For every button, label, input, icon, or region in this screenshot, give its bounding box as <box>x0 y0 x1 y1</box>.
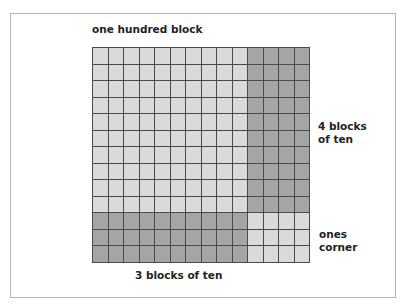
hundred-block-cell <box>155 48 171 65</box>
hundred-block-cell <box>171 81 187 98</box>
hundred-block-title: one hundred block <box>92 23 202 36</box>
right-tens-cell <box>264 147 280 164</box>
ones-corner-cell <box>248 246 264 263</box>
ones-corner-cell <box>248 213 264 230</box>
hundred-block-cell <box>217 197 233 214</box>
hundred-block-cell <box>93 98 109 115</box>
hundred-block-cell <box>233 65 249 82</box>
hundred-block-cell <box>109 114 125 131</box>
bottom-tens-cell <box>93 246 109 263</box>
hundred-block-cell <box>109 147 125 164</box>
right-tens-cell <box>264 164 280 181</box>
hundred-block-cell <box>109 131 125 148</box>
hundred-block-cell <box>217 81 233 98</box>
bottom-tens-cell <box>124 230 140 247</box>
hundred-block-cell <box>202 197 218 214</box>
hundred-block-cell <box>186 114 202 131</box>
right-tens-cell <box>279 164 295 181</box>
right-tens-cell <box>279 131 295 148</box>
hundred-block-cell <box>233 81 249 98</box>
hundred-block-cell <box>202 81 218 98</box>
hundred-block-cell <box>140 98 156 115</box>
hundred-block-cell <box>93 81 109 98</box>
right-tens-cell <box>295 114 311 131</box>
right-tens-cell <box>264 197 280 214</box>
hundred-block-cell <box>233 131 249 148</box>
hundred-block-cell <box>233 48 249 65</box>
hundred-block-cell <box>186 81 202 98</box>
right-tens-cell <box>295 164 311 181</box>
bottom-tens-cell <box>155 213 171 230</box>
right-tens-cell <box>295 180 311 197</box>
hundred-block-cell <box>155 147 171 164</box>
ones-corner-cell <box>295 230 311 247</box>
right-tens-cell <box>279 98 295 115</box>
hundred-block-cell <box>217 98 233 115</box>
hundred-block-cell <box>155 98 171 115</box>
hundred-block-cell <box>155 114 171 131</box>
ones-corner-cell <box>295 213 311 230</box>
right-tens-cell <box>295 65 311 82</box>
hundred-block-cell <box>202 180 218 197</box>
hundred-block-cell <box>186 65 202 82</box>
hundred-block-cell <box>124 164 140 181</box>
right-tens-cell <box>248 65 264 82</box>
right-tens-cell <box>264 81 280 98</box>
bottom-tens-cell <box>202 246 218 263</box>
bottom-tens-cell <box>171 213 187 230</box>
ones-corner-cell <box>248 230 264 247</box>
bottom-tens-cell <box>171 246 187 263</box>
hundred-block-cell <box>124 48 140 65</box>
bottom-tens-cell <box>217 230 233 247</box>
hundred-block-cell <box>109 65 125 82</box>
ones-corner-label: ones corner <box>319 228 357 254</box>
right-tens-cell <box>279 180 295 197</box>
bottom-tens-cell <box>140 246 156 263</box>
hundred-block-cell <box>217 147 233 164</box>
hundred-block-cell <box>233 180 249 197</box>
hundred-block-cell <box>93 131 109 148</box>
right-tens-cell <box>264 180 280 197</box>
hundred-block-cell <box>109 98 125 115</box>
hundred-block-cell <box>124 147 140 164</box>
hundred-block-cell <box>202 164 218 181</box>
hundred-block-cell <box>202 131 218 148</box>
bottom-tens-cell <box>140 213 156 230</box>
hundred-block-cell <box>124 81 140 98</box>
right-tens-cell <box>295 48 311 65</box>
hundred-block-cell <box>217 114 233 131</box>
hundred-block-cell <box>202 147 218 164</box>
hundred-block-cell <box>140 197 156 214</box>
three-blocks-of-ten-label: 3 blocks of ten <box>135 269 222 282</box>
bottom-tens-cell <box>233 246 249 263</box>
right-tens-cell <box>264 114 280 131</box>
hundred-block-cell <box>124 180 140 197</box>
hundred-block-cell <box>93 114 109 131</box>
bottom-tens-cell <box>233 230 249 247</box>
hundred-block-cell <box>233 98 249 115</box>
right-tens-cell <box>248 81 264 98</box>
base-ten-grid <box>92 47 310 263</box>
right-tens-cell <box>295 98 311 115</box>
right-tens-cell <box>248 180 264 197</box>
hundred-block-cell <box>186 98 202 115</box>
hundred-block-cell <box>140 147 156 164</box>
hundred-block-cell <box>186 180 202 197</box>
label-line: corner <box>319 241 357 254</box>
hundred-block-cell <box>171 164 187 181</box>
hundred-block-cell <box>171 65 187 82</box>
hundred-block-cell <box>171 147 187 164</box>
hundred-block-cell <box>93 197 109 214</box>
hundred-block-cell <box>155 81 171 98</box>
ones-corner-cell <box>279 246 295 263</box>
hundred-block-cell <box>140 164 156 181</box>
bottom-tens-cell <box>186 230 202 247</box>
right-tens-cell <box>264 48 280 65</box>
title-text: one hundred block <box>92 23 202 35</box>
hundred-block-cell <box>186 197 202 214</box>
hundred-block-cell <box>109 81 125 98</box>
hundred-block-cell <box>93 164 109 181</box>
hundred-block-cell <box>233 197 249 214</box>
hundred-block-cell <box>202 65 218 82</box>
hundred-block-cell <box>109 180 125 197</box>
